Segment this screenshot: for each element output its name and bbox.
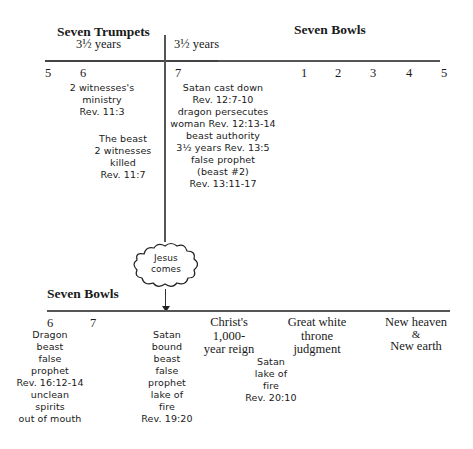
note-line: out of mouth [12,413,88,425]
left-years-label: 3½ years [76,37,121,52]
note-line: Satan [137,329,197,341]
note-line: ministry [52,94,152,106]
note-line: beast [12,341,88,353]
note-line: false prophet [168,154,278,166]
event-line: Christ's [199,316,259,330]
bowl-3: 3 [370,66,376,81]
event-line: Great white [282,316,352,330]
seven-bowls-heading-bottom: Seven Bowls [47,286,119,302]
note-line: Rev. 11:7 [88,169,158,181]
bottom-timeline [47,310,450,312]
satan-cast-down-note: Satan cast down Rev. 12:7-10 dragon pers… [168,82,278,190]
event-line: throne [282,330,352,344]
jesus-comes-label: Jesus comes [140,253,192,275]
satan-bound-note: Satan bound beast false prophet lake of … [137,329,197,425]
note-line: lake of [137,389,197,401]
note-line: killed [88,157,158,169]
note-line: Rev. 16:12-14 [12,377,88,389]
trumpet-5: 5 [45,66,51,81]
note-line: Satan cast down [168,82,278,94]
event-line: New earth [380,340,452,352]
bowl-4: 4 [406,66,412,81]
event-line: year reign [199,343,259,357]
note-line: 3½ years Rev. 13:5 [168,142,278,154]
event-line: judgment [282,343,352,357]
note-line: false [12,353,88,365]
note-line: Satan [243,356,299,368]
bowl-5: 5 [441,66,447,81]
christ-reign-event: Christ's 1,000- year reign [199,316,259,357]
cloud-line: comes [140,264,192,275]
note-line: beast authority [168,130,278,142]
new-heaven-event: New heaven & New earth [380,316,452,352]
note-line: spirits [12,401,88,413]
note-line: Dragon [12,329,88,341]
trumpet-7: 7 [175,66,181,81]
note-line: The beast [88,133,158,145]
note-line: Rev. 13:11-17 [168,178,278,190]
bowl-7: 7 [90,316,96,331]
witnesses-ministry-note: 2 witnesses's ministry Rev. 11:3 [52,82,152,118]
dragon-note: Dragon beast false prophet Rev. 16:12-14… [12,329,88,425]
cloud-line: Jesus [140,253,192,264]
right-years-label: 3½ years [174,37,219,52]
note-line: Rev. 11:3 [52,106,152,118]
note-line: beast [137,353,197,365]
note-line: lake of [243,368,299,380]
note-line: 2 witnesses's [52,82,152,94]
event-line: New heaven [380,316,452,328]
note-line: dragon persecutes [168,106,278,118]
note-line: Rev. 20:10 [243,392,299,404]
top-timeline [45,60,218,62]
midpoint-divider [164,35,166,242]
bowl-1: 1 [301,66,307,81]
note-line: false [137,365,197,377]
note-line: bound [137,341,197,353]
beast-kills-witnesses-note: The beast 2 witnesses killed Rev. 11:7 [88,133,158,181]
top-timeline-right [218,60,440,62]
note-line: (beast #2) [168,166,278,178]
bowl-2: 2 [335,66,341,81]
note-line: unclean [12,389,88,401]
trumpet-6: 6 [80,66,86,81]
note-line: prophet [12,365,88,377]
note-line: Rev. 19:20 [137,413,197,425]
note-line: fire [137,401,197,413]
great-white-throne-event: Great white throne judgment [282,316,352,357]
note-line: fire [243,380,299,392]
seven-bowls-heading-top: Seven Bowls [294,22,366,38]
note-line: Rev. 12:7-10 [168,94,278,106]
satan-lake-of-fire-note: Satan lake of fire Rev. 20:10 [243,356,299,404]
note-line: 2 witnesses [88,145,158,157]
event-line: 1,000- [199,330,259,344]
note-line: woman Rev. 12:13-14 [168,118,278,130]
note-line: prophet [137,377,197,389]
